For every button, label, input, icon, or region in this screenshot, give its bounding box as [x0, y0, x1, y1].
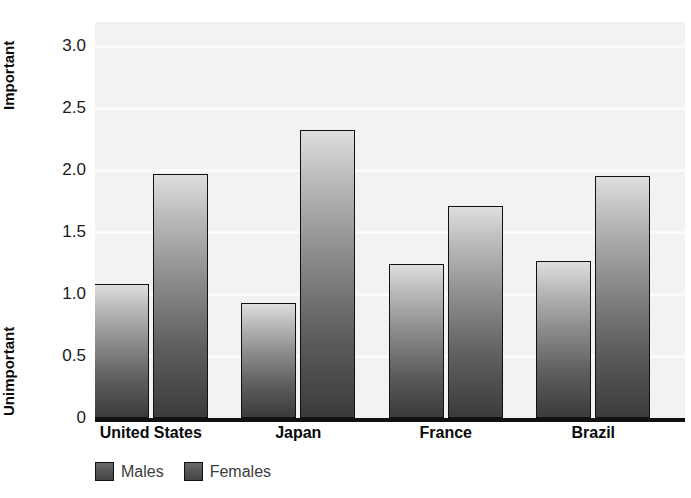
bar-males-united-states: [95, 284, 149, 418]
category-label: France: [372, 424, 520, 442]
bar-males-france: [389, 264, 444, 418]
y-tick-label: 2.5: [42, 99, 86, 116]
y-tick-label: 1.0: [42, 285, 86, 302]
legend-entry: Males: [95, 462, 164, 481]
y-tick-label: 0.5: [42, 347, 86, 364]
y-tick-label: 2.0: [42, 161, 86, 178]
legend-label: Males: [121, 463, 164, 481]
bar-females-brazil: [595, 176, 650, 418]
bars-layer: [95, 22, 685, 418]
bar-females-japan: [300, 130, 355, 418]
x-axis-category-labels: United StatesJapanFranceBrazil: [95, 424, 685, 448]
category-label: Brazil: [520, 424, 668, 442]
bar-males-japan: [241, 303, 296, 418]
y-axis-low-label: Unimportant: [0, 386, 17, 418]
plot-area: [95, 22, 685, 418]
bar-males-brazil: [536, 261, 591, 418]
category-label: United States: [77, 424, 225, 442]
bar-females-united-states: [153, 174, 208, 418]
y-tick-label: 3.0: [42, 37, 86, 54]
x-axis-line: [95, 418, 685, 422]
y-tick-label: 1.5: [42, 223, 86, 240]
legend-swatch-icon: [184, 462, 203, 481]
category-label: Japan: [225, 424, 373, 442]
legend-entry: Females: [184, 462, 271, 481]
chart-legend: MalesFemales: [95, 462, 271, 481]
bar-chart: Important Unimportant 3.02.52.01.51.00.5…: [0, 0, 691, 498]
bar-females-france: [448, 206, 503, 418]
legend-label: Females: [210, 463, 271, 481]
legend-swatch-icon: [95, 462, 114, 481]
y-axis-high-label: Important: [0, 80, 17, 112]
